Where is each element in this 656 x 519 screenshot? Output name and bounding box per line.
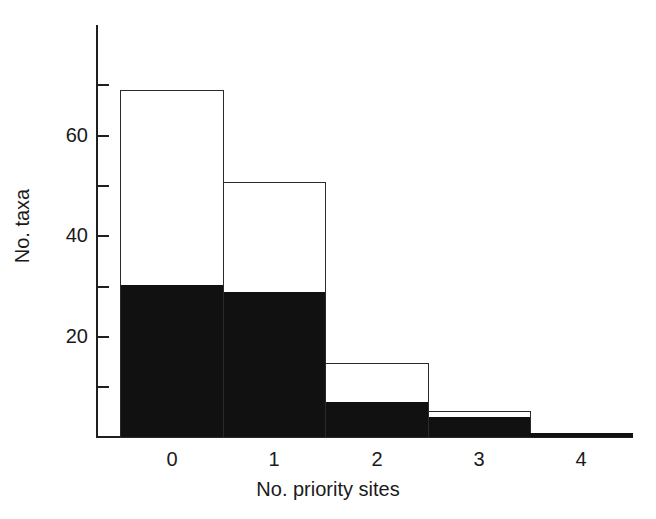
histogram-figure: 60 40 20 0 1 2 3 4 No. priority sites No… <box>0 0 656 519</box>
y-axis-line <box>96 25 98 438</box>
y-tick-label-20-wrap: 20 <box>38 326 88 346</box>
x-tick-label-3: 3 <box>459 447 499 471</box>
y-tick-label-60-wrap: 60 <box>38 125 88 145</box>
x-tick-label-4: 4 <box>561 447 601 471</box>
y-tick-label-40: 40 <box>42 225 88 245</box>
x-tick-label-0: 0 <box>152 447 192 471</box>
bar-fill-1 <box>224 292 325 437</box>
x-tick-label-1: 1 <box>254 447 294 471</box>
y-tick-40 <box>98 235 109 237</box>
y-tick-label-40-wrap: 40 <box>38 225 88 245</box>
y-tick-10 <box>98 386 109 388</box>
y-axis-title: No. taxa <box>11 166 33 286</box>
y-tick-label-60: 60 <box>42 125 88 145</box>
y-tick-label-20: 20 <box>42 326 88 346</box>
bar-fill-2 <box>326 402 428 437</box>
plot-area: 60 40 20 0 1 2 3 4 No. priority sites No… <box>0 0 656 519</box>
y-tick-30 <box>98 286 109 288</box>
y-tick-20 <box>98 336 109 338</box>
bar-fill-0 <box>121 285 223 437</box>
bar-zero-4 <box>530 433 633 437</box>
x-tick-label-2: 2 <box>357 447 397 471</box>
bar-fill-3 <box>429 417 530 437</box>
x-axis-title: No. priority sites <box>0 477 656 501</box>
y-tick-60 <box>98 135 109 137</box>
y-tick-50 <box>98 185 109 187</box>
y-tick-70 <box>98 84 109 86</box>
